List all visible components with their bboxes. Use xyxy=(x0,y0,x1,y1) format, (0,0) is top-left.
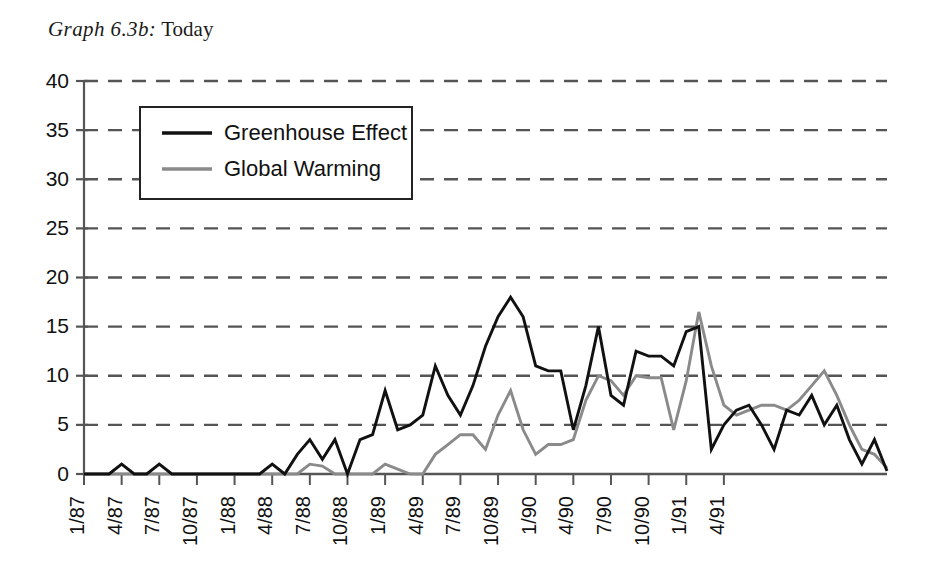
x-axis-label: 1/91 xyxy=(668,496,690,535)
x-axis-label: 4/87 xyxy=(104,496,126,535)
chart-legend: Greenhouse EffectGlobal Warming xyxy=(140,107,412,199)
y-axis-label: 10 xyxy=(46,363,69,386)
x-axis-label: 1/89 xyxy=(367,496,389,535)
x-axis-label: 1/87 xyxy=(66,496,88,535)
y-axis-label: 15 xyxy=(46,314,69,337)
x-axis-label: 10/89 xyxy=(480,496,502,546)
x-axis-label: 4/88 xyxy=(254,496,276,535)
x-axis-label: 4/91 xyxy=(706,496,728,535)
data-series xyxy=(84,297,887,474)
y-axis-label: 5 xyxy=(57,412,69,435)
x-axis-label: 4/89 xyxy=(405,496,427,535)
y-axis-label: 30 xyxy=(46,167,69,190)
x-axis-label: 10/88 xyxy=(329,496,351,546)
x-axis-label: 10/90 xyxy=(631,496,653,546)
x-axis-label: 7/89 xyxy=(442,496,464,535)
series-line-global-warming xyxy=(84,312,887,474)
line-chart: 0510152025303540 1/874/877/8710/871/884/… xyxy=(0,0,930,563)
x-axis-label: 10/87 xyxy=(179,496,201,546)
x-axis-tick-labels: 1/874/877/8710/871/884/887/8810/881/894/… xyxy=(66,496,728,546)
legend-label-global-warming: Global Warming xyxy=(224,156,381,181)
y-axis-tick-labels: 0510152025303540 xyxy=(46,69,69,485)
y-axis-label: 0 xyxy=(57,462,69,485)
x-axis-label: 7/90 xyxy=(593,496,615,535)
x-axis-label: 1/88 xyxy=(217,496,239,535)
x-axis xyxy=(84,474,887,485)
y-axis-label: 25 xyxy=(46,216,69,239)
x-axis-label: 7/88 xyxy=(292,496,314,535)
x-axis-label: 7/87 xyxy=(141,496,163,535)
y-axis-label: 20 xyxy=(46,265,69,288)
x-axis-label: 4/90 xyxy=(555,496,577,535)
legend-label-greenhouse-effect: Greenhouse Effect xyxy=(224,120,407,145)
y-axis-label: 40 xyxy=(46,69,69,92)
y-axis-label: 35 xyxy=(46,118,69,141)
y-axis xyxy=(76,81,88,474)
chart-page: Graph 6.3b:Today 0510152025303540 1/874/… xyxy=(0,0,930,563)
x-axis-label: 1/90 xyxy=(518,496,540,535)
